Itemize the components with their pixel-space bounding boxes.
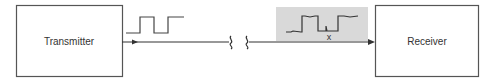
transmission-diagram: Transmitter x Receiver xyxy=(0,0,485,82)
line-break-icon xyxy=(246,36,248,49)
transmitter-label: Transmitter xyxy=(44,36,95,47)
receiver-label: Receiver xyxy=(407,36,447,47)
transmitter-block: Transmitter xyxy=(17,6,123,77)
clean-signal-waveform xyxy=(126,17,184,33)
arrowhead-icon xyxy=(368,39,375,45)
arrowhead-icon xyxy=(132,40,138,45)
receiver-block: Receiver xyxy=(376,6,479,77)
noise-marker-label: x xyxy=(327,32,332,42)
line-break-icon xyxy=(230,36,232,49)
noisy-signal-panel xyxy=(276,7,368,41)
